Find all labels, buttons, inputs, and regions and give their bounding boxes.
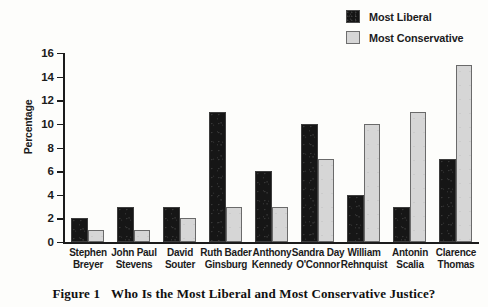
y-axis-tick-label: 4: [48, 189, 54, 201]
y-axis-tick: [57, 53, 63, 54]
bar-most-conservative: [364, 124, 381, 242]
legend-label-most-conservative: Most Conservative: [369, 32, 464, 44]
x-axis-label: ClarenceThomas: [428, 246, 484, 271]
y-axis-tick: [57, 100, 63, 101]
bar-most-liberal: [117, 207, 134, 242]
bar-most-conservative: [318, 159, 335, 242]
x-axis-label-line: Thomas: [429, 258, 482, 270]
y-axis-tick: [57, 148, 63, 149]
y-axis-tick: [57, 124, 63, 125]
y-axis-tick: [57, 218, 63, 219]
x-axis-line: [63, 242, 479, 244]
y-axis-tick: [57, 242, 63, 243]
y-axis-tick-label: 12: [41, 94, 54, 106]
figure-caption: Figure 1Who Is the Most Liberal and Most…: [0, 286, 488, 302]
bar-most-liberal: [347, 195, 364, 242]
legend-item-most-conservative: Most Conservative: [346, 27, 488, 48]
bar-most-conservative: [226, 207, 243, 242]
bars-layer: [65, 53, 479, 242]
bar-most-liberal: [209, 112, 226, 242]
y-axis-tick-label: 8: [48, 142, 54, 154]
legend-swatch-most-liberal: [346, 10, 360, 23]
y-axis-tick: [57, 171, 63, 172]
legend-item-most-liberal: Most Liberal: [346, 6, 488, 27]
y-axis-tick: [57, 77, 63, 78]
plot-area: 0246810121416: [63, 53, 479, 242]
x-axis-category-labels: StephenBreyerJohn PaulStevensDavidSouter…: [65, 246, 479, 280]
bar-most-liberal: [301, 124, 318, 242]
y-axis-tick: [57, 195, 63, 196]
bar-most-liberal: [71, 218, 88, 242]
bar-most-liberal: [439, 159, 456, 242]
bar-most-conservative: [134, 230, 151, 242]
figure-caption-text: Who Is the Most Liberal and Most Conserv…: [111, 286, 435, 301]
bar-most-conservative: [410, 112, 427, 242]
figure-number: Figure 1: [53, 286, 101, 301]
bar-most-conservative: [180, 218, 197, 242]
legend-label-most-liberal: Most Liberal: [369, 11, 432, 23]
x-axis-label-line: Clarence: [429, 246, 482, 258]
y-axis-title: Percentage: [22, 72, 34, 182]
legend-swatch-most-conservative: [346, 31, 360, 44]
figure-container: Most Liberal Most Conservative Percentag…: [0, 0, 488, 307]
bar-most-conservative: [272, 207, 289, 242]
y-axis-tick-label: 10: [41, 118, 54, 130]
bar-most-conservative: [456, 65, 473, 242]
bar-most-liberal: [393, 207, 410, 242]
bar-most-conservative: [88, 230, 105, 242]
chart-legend: Most Liberal Most Conservative: [346, 6, 488, 48]
y-axis-tick-label: 2: [48, 212, 54, 224]
y-axis-tick-label: 14: [41, 71, 54, 83]
y-axis-tick-label: 6: [48, 165, 54, 177]
y-axis-tick-label: 0: [48, 236, 54, 248]
bar-most-liberal: [255, 171, 272, 242]
y-axis-tick-label: 16: [41, 47, 54, 59]
bar-most-liberal: [163, 207, 180, 242]
